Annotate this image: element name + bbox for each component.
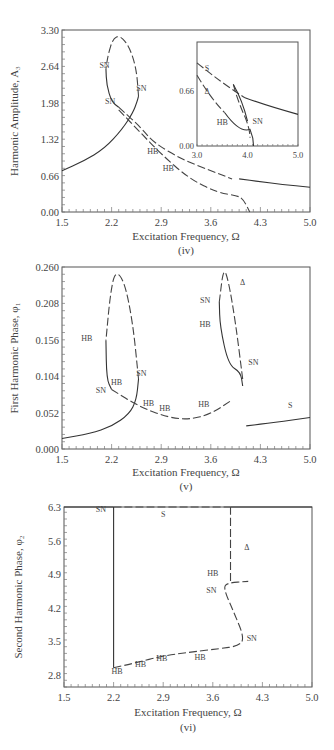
point-annotation: Δ	[244, 543, 249, 552]
point-annotation: HB	[111, 378, 122, 387]
point-annotation: SN	[136, 369, 146, 378]
point-annotation: Δ	[240, 278, 245, 287]
y-tick-label: 1.98	[41, 98, 59, 109]
x-tick-label: 5.0	[303, 217, 316, 228]
x-tick-label: 5.0	[303, 454, 316, 465]
x-tick-label: 1.5	[57, 692, 70, 703]
inset-annotation: Δ	[205, 87, 210, 96]
point-annotation: S	[161, 510, 165, 519]
y-tick-label: 0.00	[41, 207, 59, 218]
point-annotation: SN	[200, 296, 210, 305]
x-axis-ticks	[62, 444, 310, 449]
point-annotation: HB	[143, 399, 154, 408]
figure-caption: (vi)	[180, 721, 196, 734]
x-tick-label: 3.6	[204, 217, 217, 228]
figure-caption: (iv)	[178, 244, 194, 257]
x-tick-label: 3.6	[206, 692, 219, 703]
y-tick-label: 2.8	[48, 670, 61, 681]
inset-series	[233, 84, 247, 121]
chart-panel-v: 1.52.22.93.64.35.00.0000.0520.1040.1560.…	[8, 262, 317, 493]
point-annotation: HB	[135, 660, 146, 669]
x-tick-label: 2.9	[157, 692, 170, 703]
x-tick-label: 4.3	[256, 692, 269, 703]
y-tick-label: 0.156	[35, 335, 59, 346]
point-annotation: HB	[163, 164, 174, 173]
point-annotation: HB	[207, 569, 218, 578]
inset-x-tick-label: 5.0	[293, 150, 304, 160]
inset-annotation: HB	[217, 118, 228, 127]
point-annotation: S	[288, 401, 292, 410]
point-annotation: SN	[248, 358, 258, 367]
inset-y-tick-label: 0.00	[179, 141, 194, 151]
data-series	[219, 272, 242, 379]
data-series	[239, 179, 310, 187]
data-series	[219, 302, 242, 386]
data-series	[106, 274, 139, 379]
inset-plot: 3.04.05.00.000.66SΔHBSN	[179, 42, 303, 160]
x-axis-title: Excitation Frequency, Ω	[134, 706, 241, 718]
inset-x-tick-label: 4.0	[242, 150, 253, 160]
x-tick-label: 5.0	[305, 692, 318, 703]
x-tick-label: 4.3	[254, 217, 267, 228]
x-axis-ticks	[62, 207, 310, 212]
y-tick-label: 0.104	[35, 371, 59, 382]
point-annotation: SN	[96, 505, 106, 514]
x-axis-ticks	[64, 682, 312, 687]
inset-annotation: SN	[252, 117, 262, 126]
x-tick-label: 1.5	[55, 454, 68, 465]
y-axis-title: Harmonic Amplitude, A₃	[8, 66, 20, 176]
y-tick-label: 3.30	[41, 25, 59, 36]
point-annotation: HB	[200, 320, 211, 329]
data-series	[62, 96, 139, 170]
y-tick-label: 0.000	[35, 444, 59, 455]
point-annotation: SN	[247, 634, 257, 643]
figure-caption: (v)	[180, 480, 193, 493]
plot-frame	[62, 267, 310, 449]
y-tick-label: 1.32	[41, 134, 59, 145]
point-annotation: SN	[99, 61, 109, 70]
plot-frame	[62, 30, 310, 212]
y-tick-label: 0.260	[35, 262, 59, 273]
y-tick-label: 3.5	[48, 636, 61, 647]
series-group	[64, 507, 312, 668]
inset-x-tick-label: 3.0	[192, 150, 203, 160]
plot-frame	[64, 507, 312, 687]
data-series	[119, 107, 232, 179]
y-axis-title: First Harmonic Phase, φ₁	[8, 302, 20, 413]
y-tick-label: 0.052	[35, 408, 59, 419]
figure-canvas: 1.52.22.93.64.35.00.000.661.321.982.643.…	[0, 0, 334, 750]
point-annotation: HB	[81, 334, 92, 343]
y-tick-label: 0.66	[41, 171, 59, 182]
point-annotation: HB	[159, 404, 170, 413]
x-tick-label: 1.5	[55, 217, 68, 228]
point-annotation: HB	[147, 147, 158, 156]
x-tick-label: 2.9	[155, 217, 168, 228]
x-tick-label: 2.2	[107, 692, 120, 703]
point-annotation: SN	[96, 386, 106, 395]
point-annotation: HB	[194, 653, 205, 662]
x-axis-title: Excitation Frequency, Ω	[132, 466, 239, 478]
point-annotation: SN	[136, 84, 146, 93]
y-tick-label: 4.9	[48, 569, 61, 580]
series-group	[62, 272, 310, 439]
x-tick-label: 3.6	[204, 454, 217, 465]
x-tick-label: 2.2	[105, 217, 118, 228]
x-tick-label: 2.9	[155, 454, 168, 465]
data-series	[246, 418, 310, 426]
y-axis-title: Second Harmonic Phase, φ₂	[12, 535, 24, 658]
point-annotation: SN	[206, 586, 216, 595]
point-annotation: HB	[112, 667, 123, 676]
x-tick-label: 4.3	[254, 454, 267, 465]
chart-panel-vi: 1.52.22.93.64.35.02.83.54.24.95.66.3Exci…	[12, 502, 319, 734]
data-series	[106, 37, 139, 97]
y-tick-label: 2.64	[41, 61, 60, 72]
y-tick-label: 5.6	[48, 536, 61, 547]
point-annotation: HB	[156, 654, 167, 663]
inset-series	[245, 98, 298, 115]
chart-panel-iv: 1.52.22.93.64.35.00.000.661.321.982.643.…	[8, 25, 317, 257]
y-tick-label: 6.3	[48, 502, 61, 513]
data-series	[114, 581, 249, 667]
data-series	[112, 390, 232, 419]
x-tick-label: 2.2	[105, 454, 118, 465]
x-axis-title: Excitation Frequency, Ω	[132, 230, 239, 242]
